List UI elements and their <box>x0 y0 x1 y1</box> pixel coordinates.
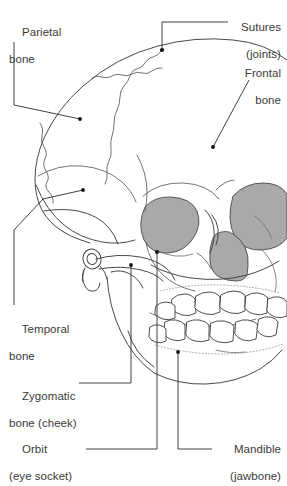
dot-mandible <box>176 350 180 354</box>
dot-orbit <box>155 250 159 254</box>
mandible-ramus <box>107 277 154 373</box>
gum-line-texture <box>155 344 283 354</box>
external-auditory-meatus <box>80 247 107 282</box>
label-mandible-line1: Mandible <box>234 443 281 455</box>
label-temporal-line2: bone <box>9 350 69 363</box>
temporal-fossa-detail <box>261 249 276 292</box>
left-orbit <box>141 197 199 253</box>
zygomaticomaxillary-suture <box>197 253 211 269</box>
upper-gum-texture <box>160 285 280 293</box>
posterior-suture <box>40 123 53 203</box>
label-mandible: Mandible (jawbone) <box>221 430 281 486</box>
dot-parietal <box>78 117 82 121</box>
label-zygomatic-line1: Zygomatic <box>22 390 76 402</box>
dot-zygomatic <box>129 263 133 267</box>
label-sutures-line1: Sutures <box>241 21 281 33</box>
leader-temporal <box>14 190 83 305</box>
label-parietal-bone: Parietal bone <box>9 13 61 92</box>
label-orbit-line2: (eye socket) <box>9 470 72 483</box>
label-temporal-line1: Temporal <box>22 323 70 335</box>
dot-frontal <box>211 145 215 149</box>
mastoid-process <box>83 270 100 291</box>
mandible-condyle-neck <box>111 271 143 288</box>
label-frontal-line2: bone <box>232 94 281 107</box>
dot-temporal <box>81 188 85 192</box>
label-parietal-line1: Parietal <box>22 26 61 38</box>
leader-zygomatic <box>79 265 131 383</box>
label-orbit: Orbit (eye socket) <box>9 430 72 486</box>
mandible-body <box>154 350 282 384</box>
label-orbit-line1: Orbit <box>22 443 47 455</box>
label-frontal-bone: Frontal bone <box>232 54 281 133</box>
frontal-bone-region <box>137 155 147 211</box>
dot-sutures <box>160 48 164 52</box>
maxilla-upper-teeth <box>155 291 287 320</box>
mandible-lower-teeth <box>149 317 278 343</box>
mental-protuberance <box>216 350 246 353</box>
leader-mandible <box>178 352 212 449</box>
label-zygomatic-line2: bone (cheek) <box>9 417 77 430</box>
leader-orbit <box>86 252 157 449</box>
supraorbital-ridge <box>143 183 219 199</box>
label-parietal-line2: bone <box>9 53 61 66</box>
glabella <box>216 180 234 190</box>
label-frontal-line1: Frontal <box>245 67 281 79</box>
leader-sutures <box>162 22 228 50</box>
temporal-lateral-wall <box>44 210 118 245</box>
label-mandible-line2: (jawbone) <box>221 470 281 483</box>
lambdoid-suture <box>92 68 162 78</box>
